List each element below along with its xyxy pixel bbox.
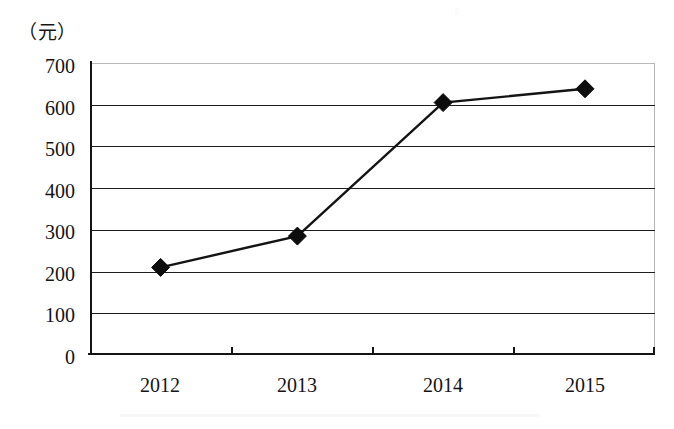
y-tick-label-700: 700 xyxy=(0,56,75,76)
line-chart-figure: （元） 700 600 500 400 300 200 100 0 2012 2… xyxy=(0,0,674,429)
x-tick-label-2012: 2012 xyxy=(120,375,200,395)
scan-artifact-top xyxy=(455,8,459,15)
y-tick-label-100: 100 xyxy=(0,305,75,325)
y-tick-label-600: 600 xyxy=(0,98,75,118)
y-tick-label-400: 400 xyxy=(0,181,75,201)
x-tick-label-2015: 2015 xyxy=(545,375,625,395)
data-series-line xyxy=(90,63,655,355)
scan-artifact-bottom xyxy=(120,414,540,417)
data-point-marker-2015 xyxy=(576,80,594,98)
series-polyline xyxy=(161,89,585,268)
y-tick-label-0: 0 xyxy=(0,347,75,367)
y-tick-label-300: 300 xyxy=(0,222,75,242)
y-axis-unit-label: （元） xyxy=(18,22,77,44)
plot-area xyxy=(90,63,655,355)
y-tick-label-200: 200 xyxy=(0,264,75,284)
x-tick-label-2014: 2014 xyxy=(403,375,483,395)
x-tick-label-2013: 2013 xyxy=(257,375,337,395)
data-point-marker-2012 xyxy=(152,258,170,276)
y-tick-label-500: 500 xyxy=(0,139,75,159)
